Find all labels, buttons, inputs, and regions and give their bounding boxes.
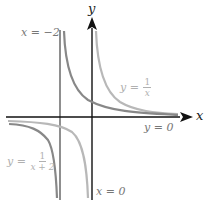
asymptote-x-neg2-label: x = −2 <box>21 27 60 38</box>
curve-1-over-x-label: y = 1 x <box>120 78 151 98</box>
fraction-numerator: 1 <box>39 152 47 162</box>
asymptote-y-0-label: y = 0 <box>144 122 173 133</box>
curve-1-over-x-plus-2-lhs: y = <box>7 155 26 168</box>
fraction: 1 x + 2 <box>30 152 54 172</box>
y-axis-label: y <box>88 2 95 15</box>
curve-1-over-x-plus-2-label: y = 1 x + 2 <box>7 152 55 172</box>
x-axis-label: x <box>196 109 203 122</box>
curve-1-over-x-lhs: y = <box>120 81 139 94</box>
fraction-denominator: x <box>145 88 150 98</box>
asymptote-x-0-label: x = 0 <box>96 186 125 197</box>
x-axis-arrow-icon <box>180 112 193 122</box>
curve-1-over-x-right <box>96 31 178 114</box>
fraction-denominator: x + 2 <box>30 162 54 172</box>
fraction-numerator: 1 <box>143 78 151 88</box>
fraction: 1 x <box>143 78 151 98</box>
graph-figure: y x x = −2 x = 0 y = 0 y = 1 x y = 1 x +… <box>0 0 206 206</box>
